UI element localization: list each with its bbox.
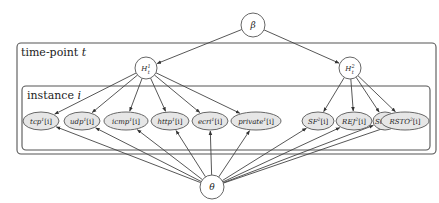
edge-H2-to-SF — [324, 77, 345, 111]
node-h1: H1t — [135, 57, 157, 79]
node-private: private1[i] — [231, 112, 281, 130]
diagram-canvas: time-point t instance i βθH1tH2ttcp1[i]u… — [0, 0, 439, 203]
node-beta-label: β — [249, 20, 255, 30]
node-tcp: tcp1[i] — [23, 112, 59, 130]
node-rsto: RSTO2[i] — [381, 112, 429, 130]
plate-instance-label: instance i — [27, 89, 81, 102]
node-sf: SF2[i] — [302, 112, 334, 130]
edge-H1-to-ecri — [154, 75, 199, 113]
edge-beta-to-H2 — [264, 30, 339, 63]
node-rsto-label: RSTO2[i] — [388, 117, 420, 126]
edge-H1-to-private — [156, 73, 240, 113]
edge-beta-to-H1 — [157, 29, 242, 63]
node-tcp-label: tcp1[i] — [30, 117, 52, 126]
edge-H1-to-http — [151, 78, 166, 111]
edge-theta-to-ecri — [210, 131, 211, 175]
edges-layer — [55, 29, 396, 183]
edge-H2-to-RSTO — [358, 76, 395, 112]
edge-theta-to-icmp — [137, 130, 202, 180]
node-http-label: http1[i] — [157, 117, 182, 126]
node-rej: REJ2[i] — [336, 112, 372, 130]
edge-theta-to-REJ — [223, 128, 340, 182]
nodes-layer: βθH1tH2ttcp1[i]udp1[i]icmp1[i]http1[i]ec… — [23, 13, 429, 199]
node-rej-label: REJ2[i] — [341, 117, 366, 126]
edge-theta-to-RSTO — [223, 127, 386, 183]
node-h2: H2t — [339, 57, 361, 79]
node-ecri: ecri1[i] — [192, 112, 228, 130]
node-private-label: private1[i] — [238, 117, 274, 126]
edge-H1-to-udp — [92, 75, 137, 113]
edge-H1-to-icmp — [130, 78, 142, 111]
node-udp: udp1[i] — [64, 112, 100, 130]
edge-H2-to-S0 — [356, 77, 379, 112]
node-icmp-label: icmp1[i] — [112, 117, 140, 126]
node-beta: β — [241, 13, 265, 37]
node-ecri-label: ecri1[i] — [198, 117, 223, 126]
node-theta: θ — [200, 175, 224, 199]
node-http: http1[i] — [151, 112, 189, 130]
node-udp-label: udp1[i] — [70, 117, 94, 126]
node-icmp: icmp1[i] — [104, 112, 148, 130]
plate-time-point-label: time-point t — [21, 46, 87, 59]
node-theta-label: θ — [209, 182, 215, 192]
edge-theta-to-udp — [96, 128, 202, 182]
edge-H2-to-REJ — [351, 79, 353, 111]
